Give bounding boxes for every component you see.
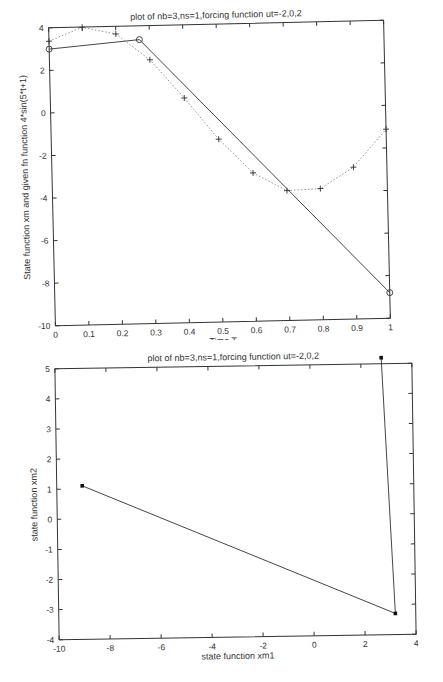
x-tick-label: 0 bbox=[53, 330, 58, 340]
x-tick-label: -2 bbox=[259, 641, 267, 651]
top-chart: plot of nb=3,ns=1,forcing function ut=-2… bbox=[0, 0, 443, 340]
plot-group: plot of nb=3,ns=1,forcing function ut=-2… bbox=[16, 6, 394, 340]
y-tick-label: -6 bbox=[41, 236, 49, 246]
x-tick-label: -8 bbox=[106, 643, 114, 653]
plot-group: plot of nb=3,ns=1,forcing function ut=-2… bbox=[27, 349, 419, 664]
top-chart-canvas: plot of nb=3,ns=1,forcing function ut=-2… bbox=[0, 0, 443, 340]
y-tick-label: -2 bbox=[39, 151, 47, 161]
axes-box bbox=[55, 363, 416, 640]
y-tick-label: 0 bbox=[41, 108, 46, 118]
x-tick-label: 1 bbox=[388, 322, 393, 332]
x-tick-label: -10 bbox=[53, 644, 66, 654]
y-axis-label: State function xm and given fn function … bbox=[18, 75, 33, 280]
y-tick-label: -2 bbox=[46, 575, 54, 585]
y-tick-label: 1 bbox=[47, 484, 52, 494]
y-axis-label: state function xm2 bbox=[28, 468, 39, 541]
x-tick-label: 0.2 bbox=[117, 328, 129, 338]
y-tick-label: 2 bbox=[40, 66, 45, 76]
y-tick-label: 5 bbox=[45, 364, 50, 374]
star-marker bbox=[379, 356, 383, 360]
x-tick-label: 0.5 bbox=[217, 326, 229, 336]
y-tick-label: -10 bbox=[38, 321, 51, 331]
bottom-chart: plot of nb=3,ns=1,forcing function ut=-2… bbox=[0, 340, 443, 682]
y-tick-label: -1 bbox=[45, 545, 53, 555]
x-tick-label: -6 bbox=[157, 642, 165, 652]
star-marker bbox=[394, 612, 398, 616]
chart-title: plot of nb=3,ns=1,forcing function ut=-2… bbox=[147, 351, 319, 364]
x-tick-label: 0 bbox=[312, 640, 317, 650]
series-line bbox=[49, 34, 390, 300]
y-tick-label: -3 bbox=[46, 605, 54, 615]
x-tick-label: 2 bbox=[363, 639, 368, 649]
y-tick-label: 4 bbox=[46, 394, 51, 404]
x-axis-label: state function xm1 bbox=[201, 650, 274, 661]
x-tick-label: -4 bbox=[208, 641, 216, 651]
y-tick-label: 4 bbox=[39, 23, 44, 33]
x-tick-label: 0.3 bbox=[150, 327, 162, 337]
star-marker bbox=[80, 484, 84, 488]
x-tick-label: 0.7 bbox=[284, 324, 296, 334]
x-tick-label: 0.9 bbox=[351, 323, 363, 333]
x-tick-label: 0.8 bbox=[318, 324, 330, 334]
y-tick-label: -8 bbox=[42, 278, 50, 288]
y-tick-label: -4 bbox=[40, 193, 48, 203]
y-tick-label: 2 bbox=[47, 454, 52, 464]
x-tick-label: 0.6 bbox=[251, 325, 263, 335]
bottom-chart-canvas: plot of nb=3,ns=1,forcing function ut=-2… bbox=[0, 340, 443, 682]
y-tick-label: 3 bbox=[46, 424, 51, 434]
x-tick-label: 0.4 bbox=[184, 327, 196, 337]
y-tick-label: -4 bbox=[47, 635, 55, 645]
axes-box bbox=[49, 20, 391, 326]
series-line bbox=[80, 358, 395, 619]
x-tick-label: 4 bbox=[414, 638, 419, 648]
chart-title: plot of nb=3,ns=1,forcing function ut=-2… bbox=[130, 8, 302, 22]
x-tick-label: 0.1 bbox=[83, 329, 95, 339]
series-line bbox=[49, 20, 388, 196]
y-tick-label: 0 bbox=[47, 514, 52, 524]
